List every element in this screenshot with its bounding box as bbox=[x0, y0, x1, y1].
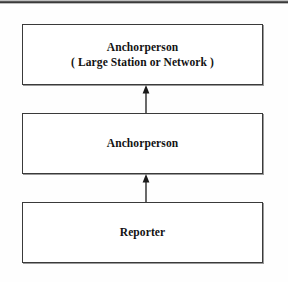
node-reporter: Reporter bbox=[22, 202, 263, 263]
node-label-line: ( Large Station or Network ) bbox=[71, 55, 214, 70]
arrow-up-icon bbox=[140, 174, 152, 202]
node-label-line: Anchorperson bbox=[107, 136, 178, 151]
scan-edge-artifact-secondary bbox=[0, 3, 288, 4]
career-path-diagram: Anchorperson ( Large Station or Network … bbox=[0, 0, 288, 282]
arrow-up-icon bbox=[140, 85, 152, 113]
node-label-line: Reporter bbox=[120, 225, 166, 240]
node-label-line: Anchorperson bbox=[107, 40, 178, 55]
node-anchorperson: Anchorperson bbox=[22, 113, 263, 174]
node-anchorperson-large-station-or-network: Anchorperson ( Large Station or Network … bbox=[22, 24, 263, 85]
